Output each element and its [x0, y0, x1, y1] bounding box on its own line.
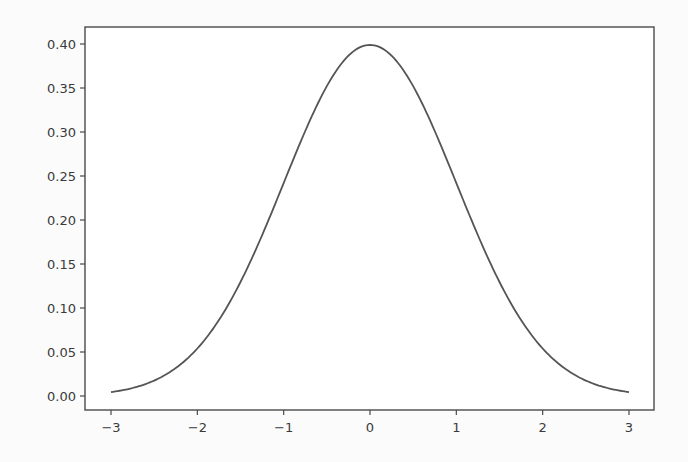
- y-tick-label: 0.10: [47, 301, 76, 316]
- x-tick-label: −1: [274, 420, 293, 435]
- y-tick-label: 0.15: [47, 257, 76, 272]
- y-tick-label: 0.30: [47, 125, 76, 140]
- x-tick-label: 0: [366, 420, 374, 435]
- y-tick-label: 0.05: [47, 345, 76, 360]
- x-tick-label: 3: [625, 420, 633, 435]
- x-tick-label: −2: [188, 420, 207, 435]
- y-axis: 0.000.050.100.150.200.250.300.350.40: [47, 37, 85, 404]
- chart: 0.000.050.100.150.200.250.300.350.40 −3−…: [0, 0, 688, 462]
- y-tick-label: 0.35: [47, 81, 76, 96]
- y-tick-label: 0.25: [47, 169, 76, 184]
- x-tick-label: −3: [101, 420, 120, 435]
- y-tick-label: 0.40: [47, 37, 76, 52]
- x-axis: −3−2−10123: [101, 410, 633, 435]
- y-tick-label: 0.20: [47, 213, 76, 228]
- plot-area: [85, 27, 654, 410]
- y-tick-label: 0.00: [47, 389, 76, 404]
- x-tick-label: 1: [452, 420, 460, 435]
- x-tick-label: 2: [539, 420, 547, 435]
